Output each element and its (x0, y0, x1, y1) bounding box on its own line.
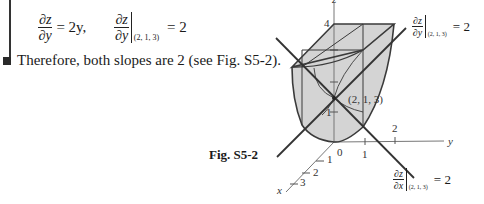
annotation-y-derivative: ∂z ∂y (2, 1, 3) (412, 15, 447, 38)
x-tick-3-label: 3 (300, 176, 306, 188)
annotation-x-point: (2, 1, 3) (406, 168, 428, 191)
point-label: (2, 1, 3) (348, 93, 383, 106)
y-axis-label: y (447, 135, 453, 147)
slope-annotation-x: ∂z ∂x (2, 1, 3) = 2 (393, 168, 451, 191)
z-tick-1-label: 1 (326, 106, 332, 118)
surface-region (292, 24, 394, 142)
annotation-x-fraction: ∂z ∂x (393, 168, 404, 191)
annotation-x-numerator: ∂z (393, 168, 404, 180)
y-tick-2-label: 2 (392, 122, 398, 134)
x-axis-label: x (276, 184, 282, 196)
annotation-y-point: (2, 1, 3) (425, 15, 447, 38)
origin-label: 0 (337, 146, 343, 158)
y-axis (334, 141, 444, 142)
y-tick-1-label: 1 (362, 148, 368, 160)
annotation-y-denominator: ∂y (413, 27, 422, 38)
annotation-y-result: = 2 (453, 19, 470, 35)
slope-annotation-y: ∂z ∂y (2, 1, 3) = 2 (412, 15, 470, 38)
z-tick-4-label: 4 (324, 17, 330, 29)
figure-caption: Fig. S5-2 (209, 147, 258, 163)
x-tick-2-label: 2 (313, 166, 319, 178)
annotation-y-fraction: ∂z ∂y (412, 15, 423, 38)
z-axis-label: z (331, 0, 337, 5)
annotation-y-numerator: ∂z (412, 15, 423, 27)
annotation-x-derivative: ∂z ∂x (2, 1, 3) (393, 168, 428, 191)
annotation-x-result: = 2 (434, 172, 451, 188)
annotation-x-denominator: ∂x (394, 180, 403, 191)
x-tick-1-label: 1 (327, 153, 333, 165)
point-marker (332, 96, 336, 100)
